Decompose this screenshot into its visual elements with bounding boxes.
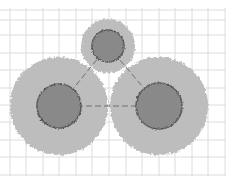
particle-core-top bbox=[92, 30, 124, 62]
particle-triangle-diagram bbox=[0, 0, 239, 188]
particle-core-right bbox=[136, 83, 182, 129]
particle-core-left bbox=[37, 84, 81, 128]
